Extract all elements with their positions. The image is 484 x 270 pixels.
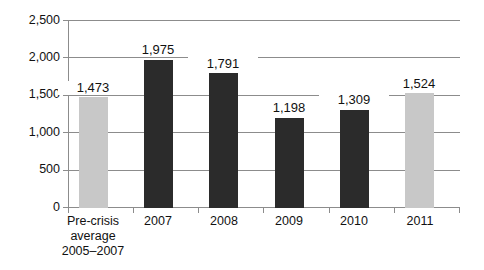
bar-chart: 2,500 2,000 1,500 1,000 500 0	[0, 0, 484, 270]
x-tick-mark	[329, 208, 330, 213]
x-tick-mark	[394, 208, 395, 213]
bar-2010	[340, 110, 369, 208]
bar-value-label-2007: 1,975	[123, 43, 193, 57]
y-axis-tick-1000: 1,000	[0, 126, 60, 138]
x-axis-label-line: 2011	[374, 214, 466, 229]
y-axis-tick-2500: 2,500	[0, 14, 60, 26]
y-axis-tick-label: 2,500	[8, 14, 60, 26]
y-axis-tick-label: 1,000	[8, 126, 60, 138]
y-axis-tick-label: 2,000	[8, 51, 60, 63]
x-tick-mark	[198, 208, 199, 213]
y-axis-tick-label: 0	[8, 201, 60, 213]
y-axis-tick-500: 500	[0, 163, 60, 175]
x-tick-mark	[263, 208, 264, 213]
bar-value-label-2008: 1,791	[188, 57, 258, 71]
y-axis-tick-1500: 1,500	[0, 88, 60, 100]
x-tick-mark	[68, 208, 69, 213]
y-axis-tick-0: 0	[0, 201, 60, 213]
x-axis-label-line: average	[47, 229, 139, 244]
y-axis-tick-label: 1,500	[8, 88, 60, 100]
x-tick-mark	[133, 208, 134, 213]
bar-value-label-pre-crisis-average: 1,473	[58, 81, 128, 95]
bar-pre-crisis-average	[79, 97, 108, 208]
x-tick-mark	[459, 208, 460, 213]
bar-value-label-2009: 1,198	[254, 101, 324, 115]
bar-value-label-2011: 1,524	[384, 77, 454, 91]
bar-2009	[275, 118, 304, 208]
y-axis-tick-2000: 2,000	[0, 51, 60, 63]
bar-value-label-2010: 1,309	[319, 93, 389, 107]
bar-2007	[144, 60, 173, 209]
y-axis-tick-label: 500	[8, 163, 60, 175]
x-axis-label-line: 2005–2007	[47, 244, 139, 259]
x-axis-label-2011: 2011	[374, 214, 466, 229]
bar-2008	[209, 73, 238, 208]
bar-2011	[405, 93, 434, 208]
